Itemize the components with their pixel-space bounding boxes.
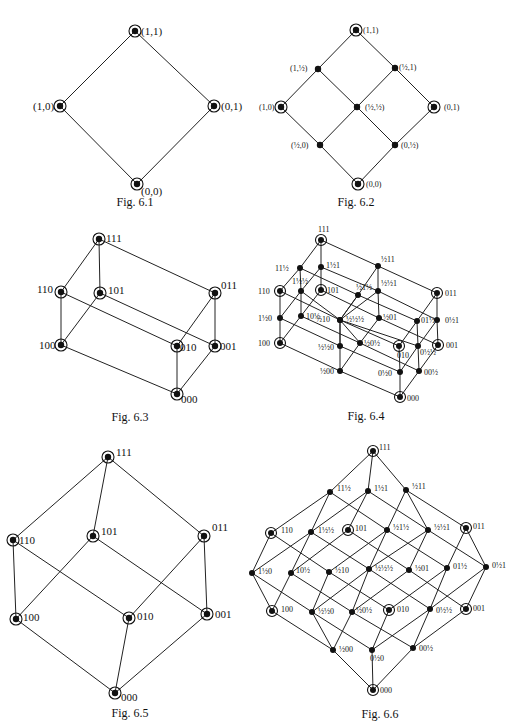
node-label: 111 — [318, 225, 329, 234]
node-label: 110 — [258, 287, 270, 296]
vertex-dot-icon — [366, 566, 372, 572]
node-label: 110 — [19, 534, 36, 546]
lattice-node: 001 — [461, 604, 486, 615]
node-label: 110 — [281, 526, 293, 535]
vertex-dot-icon — [315, 66, 321, 72]
vertex-dot-icon — [318, 264, 324, 270]
lattice-edge — [13, 540, 129, 618]
lattice-node: 000 — [395, 392, 420, 404]
vertex-dot-icon — [211, 103, 217, 109]
figure-caption: Fig. 6.2 — [337, 195, 374, 209]
node-label: 011 — [445, 289, 457, 298]
vertex-dot-icon — [355, 292, 361, 298]
vertex-dot-icon — [90, 533, 96, 539]
figure-caption: Fig. 6.1 — [116, 195, 153, 209]
node-label: ½00 — [320, 367, 334, 376]
vertex-dot-icon — [57, 103, 63, 109]
lattice-node: (1,0) — [259, 101, 287, 113]
lattice-node: ½01 — [406, 564, 429, 573]
node-label: (1,0) — [259, 103, 275, 112]
node-label: 001 — [446, 341, 458, 350]
vertex-dot-icon — [463, 525, 469, 531]
vertex-dot-icon — [392, 65, 398, 71]
vertex-dot-icon — [483, 564, 489, 570]
lattice-figures-canvas: (1,1)(1,0)(0,1)(0,0)Fig. 6.1(1,1)(1,½)(½… — [0, 0, 523, 725]
lattice-node: (0,1) — [428, 101, 460, 113]
lattice-node: 110 — [37, 283, 67, 298]
lattice-edge — [252, 573, 272, 611]
lattice-edge — [378, 291, 379, 318]
lattice-node: 1½½ — [308, 526, 334, 535]
lattice-edge — [99, 239, 100, 293]
node-label: ½½½ — [346, 315, 364, 324]
node-label: 111 — [379, 443, 390, 452]
vertex-dot-icon — [309, 609, 315, 615]
lattice-node: ½½0 — [318, 343, 343, 352]
node-label: 010 — [137, 610, 154, 622]
lattice-edge — [312, 612, 333, 650]
lattice-edge — [395, 68, 434, 107]
lattice-node: 100 — [258, 338, 286, 349]
node-label: 00½ — [424, 368, 438, 377]
node-label: (1,1) — [363, 26, 379, 35]
vertex-dot-icon — [249, 570, 255, 576]
lattice-edge — [115, 614, 207, 693]
vertex-dot-icon — [431, 104, 437, 110]
lattice-edge — [61, 239, 99, 292]
lattice-edge — [395, 107, 434, 145]
lattice-edge — [13, 540, 16, 619]
lattice-node: 011 — [432, 288, 457, 299]
vertex-dot-icon — [354, 104, 360, 110]
node-label: (1,½) — [290, 64, 308, 73]
lattice-node: 0½1 — [434, 316, 459, 325]
node-label: (0,1) — [221, 100, 242, 113]
lattice-node: 111 — [368, 443, 391, 457]
node-label: ½01 — [415, 564, 429, 573]
lattice-node: 100 — [267, 605, 294, 617]
node-label: 01½ — [421, 316, 435, 325]
node-label: 100 — [39, 339, 56, 351]
node-label: 1½1 — [326, 261, 340, 270]
book-page: (1,1)(1,0)(0,1)(0,0)Fig. 6.1(1,1)(1,½)(½… — [0, 0, 523, 725]
lattice-edge — [16, 536, 93, 619]
vertex-dot-icon — [416, 368, 422, 374]
vertex-dot-icon — [277, 340, 283, 346]
vertex-dot-icon — [298, 288, 304, 294]
nodes: (1,1)(1,½)(½,1)(1,0)(½,½)(0,1)(½,0)(0,½)… — [259, 24, 460, 190]
vertex-dot-icon — [349, 609, 355, 615]
lattice-node: 01½ — [414, 316, 435, 325]
node-label: ½01 — [383, 313, 397, 322]
node-label: ½1½ — [356, 283, 372, 292]
lattice-edge — [318, 30, 356, 69]
node-label: 011 — [212, 521, 228, 533]
nodes: (1,1)(1,0)(0,1)(0,0) — [33, 25, 242, 198]
lattice-node: 011 — [198, 521, 228, 542]
node-label: (1,0) — [33, 100, 54, 113]
lattice-edge — [137, 106, 214, 184]
vertex-dot-icon — [337, 317, 343, 323]
lattice-node: 0½0 — [378, 369, 403, 378]
node-label: 10½ — [296, 566, 310, 575]
vertex-dot-icon — [375, 288, 381, 294]
lattice-node: 00½ — [410, 644, 433, 653]
lattice-node: 100 — [39, 339, 67, 351]
lattice-edge — [281, 69, 318, 107]
node-label: 101 — [108, 284, 125, 296]
node-label: 010 — [397, 351, 409, 360]
node-label: ½1½ — [393, 523, 409, 532]
node-label: 001 — [215, 608, 232, 620]
node-label: 0½0 — [378, 369, 392, 378]
lattice-edge — [93, 536, 207, 614]
vertex-dot-icon — [345, 527, 351, 533]
fig-6-2: (1,1)(1,½)(½,1)(1,0)(½,½)(0,1)(½,0)(0,½)… — [259, 24, 460, 209]
node-label: 001 — [473, 604, 485, 613]
vertex-dot-icon — [268, 530, 274, 536]
nodes: 111110101011100010001000 — [37, 232, 237, 405]
lattice-node: 01½ — [444, 562, 467, 571]
lattice-edge — [357, 107, 395, 145]
lattice-edge — [60, 106, 137, 184]
lattice-node: (½,½) — [354, 103, 385, 112]
node-label: 000 — [121, 691, 138, 703]
nodes: 11111½1½1½111101½½101½1½½½10111½010½½½½½… — [258, 225, 459, 403]
lattice-node: 010 — [171, 340, 197, 353]
